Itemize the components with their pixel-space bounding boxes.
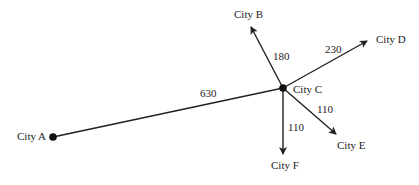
edge-label-c-f: 110 [288,122,304,133]
node-label-city-a: City A [17,131,46,142]
edge-label-c-d: 230 [325,44,342,55]
node-label-city-e: City E [337,140,365,151]
edge-label-a-c: 630 [200,88,217,99]
node-city-a-dot [49,133,57,141]
node-label-city-f: City F [271,160,299,171]
node-label-city-c: City C [293,84,322,95]
edge-label-c-e: 110 [317,104,333,115]
edge-a-c [53,88,283,137]
node-label-city-d: City D [376,34,406,45]
node-label-city-b: City B [234,9,263,20]
edge-label-c-b: 180 [273,51,290,62]
node-city-c-dot [279,84,287,92]
